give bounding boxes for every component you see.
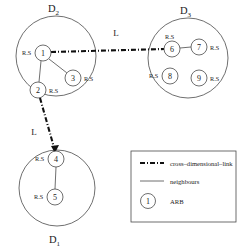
figure-root: D2 D3 D1 L L: [0, 0, 242, 248]
legend-label-arb: ARB: [170, 198, 184, 205]
dimension-label-d2: D2: [48, 3, 60, 17]
node-group-6[interactable]: 6 R.S: [164, 33, 180, 57]
rs-label-2: R.S: [49, 87, 59, 94]
rs-label-5: R.S: [34, 193, 44, 200]
legend-label-neighbours: neighbours: [170, 178, 200, 185]
node-group-5[interactable]: 5 R.S: [34, 189, 63, 205]
legend-item-arb: 1 ARB: [141, 194, 185, 209]
legend-symbol-arb-number: 1: [146, 197, 150, 206]
dimension-boundary-d3: [148, 18, 228, 98]
legend: cross–dimensional–link neighbours 1 ARB: [131, 151, 236, 222]
node-label-2: 2: [36, 86, 40, 95]
node-group-9[interactable]: 9 R.S: [191, 70, 220, 86]
legend-item-neighbours: neighbours: [140, 178, 200, 185]
diagram-canvas: D2 D3 D1 L L: [0, 0, 242, 248]
rs-label-1: R.S: [22, 49, 32, 56]
cross-link-2-4: [40, 98, 55, 151]
node-group-4[interactable]: 4 R.S: [35, 151, 64, 167]
node-label-6: 6: [170, 45, 174, 54]
cross-link-label-top: L: [113, 28, 119, 38]
node-group-8[interactable]: 8 R.S: [149, 68, 178, 84]
rs-label-4: R.S: [35, 155, 45, 162]
node-label-4: 4: [54, 155, 58, 164]
node-label-3: 3: [71, 74, 75, 83]
node-label-9: 9: [197, 74, 201, 83]
node-group-3[interactable]: 3 R.S: [65, 70, 94, 86]
edge-6-7: [180, 47, 191, 48]
cross-link-label-left: L: [31, 127, 37, 137]
rs-label-9: R.S: [210, 75, 220, 82]
rs-label-6: R.S: [165, 33, 175, 40]
dimension-label-d1: D1: [49, 234, 61, 248]
rs-label-3: R.S: [84, 75, 94, 82]
dimension-label-d3: D3: [180, 5, 192, 19]
node-group-7[interactable]: 7 R.S: [191, 39, 220, 55]
node-label-5: 5: [53, 193, 57, 202]
legend-item-cross-dimensional-link: cross–dimensional–link: [140, 160, 233, 167]
node-label-7: 7: [197, 43, 201, 52]
dimension-group-d3: D3: [148, 5, 228, 98]
rs-label-7: R.S: [210, 44, 220, 51]
legend-label-cross-dimensional-link: cross–dimensional–link: [170, 160, 233, 167]
node-group-1[interactable]: 1 R.S: [22, 45, 51, 61]
edge-1-3: [49, 59, 67, 73]
cross-link-1-6: [51, 49, 164, 52]
edge-4-5: [55, 167, 56, 189]
edge-1-2: [39, 61, 41, 82]
rs-label-8: R.S: [149, 72, 159, 79]
node-label-8: 8: [168, 72, 172, 81]
node-label-1: 1: [41, 49, 45, 58]
dimension-boundary-d2: [16, 16, 96, 96]
